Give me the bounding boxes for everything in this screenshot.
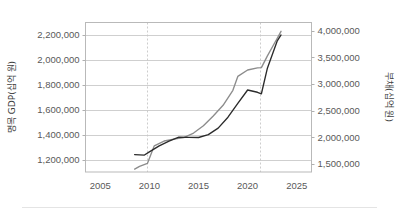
y2-tick-label: 2,000,000 [318,132,360,143]
y2-tick-label: 3,500,000 [318,52,360,63]
y-tick-label: 1,200,000 [37,154,79,165]
chart-container: 1,200,0001,400,0001,600,0001,800,0002,00… [0,0,399,215]
x-tick-label: 2025 [286,180,307,191]
y-tick-label: 1,800,000 [37,79,79,90]
y2-tick-label: 1,500,000 [318,158,360,169]
right-axis-title: 부채(십억 원) [384,72,395,122]
x-tick-label: 2020 [237,180,258,191]
y2-tick-label: 4,000,000 [318,25,360,36]
y-tick-label: 2,000,000 [37,54,79,65]
y-tick-label: 1,600,000 [37,104,79,115]
x-tick-label: 2005 [90,180,111,191]
y2-tick-label: 3,000,000 [318,78,360,89]
y-tick-label: 1,400,000 [37,129,79,140]
line-chart: 1,200,0001,400,0001,600,0001,800,0002,00… [0,0,399,215]
y2-tick-label: 2,500,000 [318,105,360,116]
left-axis-title: 명목 GDP(십억 원) [6,61,17,133]
x-tick-label: 2010 [139,180,160,191]
x-tick-label: 2015 [188,180,209,191]
y-tick-label: 2,200,000 [37,29,79,40]
